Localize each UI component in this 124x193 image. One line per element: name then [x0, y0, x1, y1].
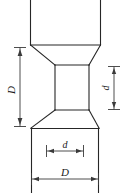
venturi-diagram: D d d	[0, 0, 124, 193]
label-left-major-diameter: D	[5, 86, 17, 95]
label-bottom-major-diameter: D	[60, 166, 69, 178]
figure-container: D d d	[0, 0, 124, 193]
figure-background	[0, 0, 124, 193]
